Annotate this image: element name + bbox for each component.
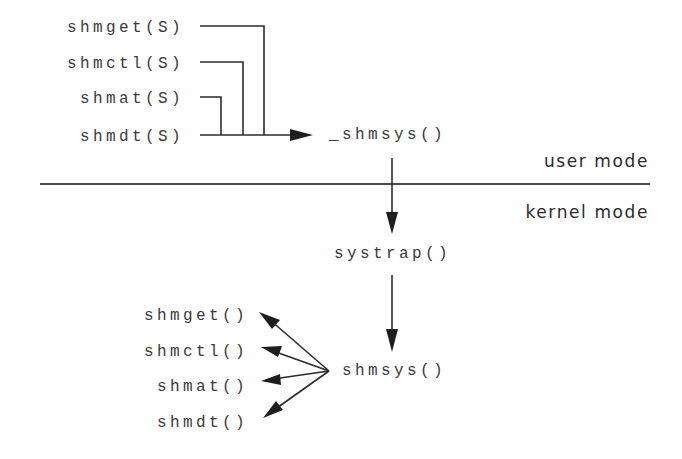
arrow-head-right-icon bbox=[290, 129, 313, 141]
kernel-fn-shmget: shmget() bbox=[144, 307, 248, 325]
user-call-shmdt: shmdt(S) bbox=[80, 128, 184, 146]
arrow-head-icon bbox=[261, 346, 282, 357]
trap-arrow bbox=[386, 158, 398, 234]
user-calls: shmget(S) shmctl(S) shmat(S) shmdt(S) bbox=[67, 19, 184, 146]
arrow-head-icon bbox=[263, 401, 283, 418]
arrow-head-down-icon bbox=[386, 329, 398, 352]
connector-shmget bbox=[200, 26, 264, 135]
library-entry-label: _shmsys() bbox=[328, 126, 446, 144]
kernel-mode-label: kernel mode bbox=[525, 202, 649, 222]
dispatcher-label: shmsys() bbox=[342, 362, 446, 380]
user-mode-label: user mode bbox=[544, 151, 649, 171]
user-call-shmctl: shmctl(S) bbox=[67, 55, 184, 73]
arrow-head-down-icon bbox=[386, 212, 398, 234]
user-call-shmat: shmat(S) bbox=[80, 90, 184, 108]
dispatch-arrow bbox=[386, 275, 398, 352]
kernel-fn-shmat: shmat() bbox=[157, 378, 248, 396]
arrow-head-icon bbox=[261, 374, 281, 385]
kernel-functions: shmget() shmctl() shmat() shmdt() bbox=[144, 307, 248, 432]
kernel-fn-shmctl: shmctl() bbox=[144, 343, 248, 361]
kernel-fn-shmdt: shmdt() bbox=[157, 414, 248, 432]
user-call-connectors bbox=[200, 26, 313, 141]
trap-handler-label: systrap() bbox=[334, 245, 451, 263]
shared-memory-syscall-diagram: shmget(S) shmctl(S) shmat(S) shmdt(S) _s… bbox=[0, 0, 682, 459]
connector-shmat bbox=[200, 97, 221, 135]
dispatch-fan-out bbox=[259, 312, 329, 418]
user-call-shmget: shmget(S) bbox=[67, 19, 184, 37]
